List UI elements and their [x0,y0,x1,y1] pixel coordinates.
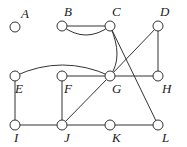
node-label-d: D [159,4,170,19]
node-label-h: H [161,81,172,96]
node-label-k: K [111,130,122,145]
node-label-i: I [13,130,19,145]
node-a [10,22,20,32]
node-h [153,71,163,81]
node-label-f: F [63,81,73,96]
node-label-g: G [112,81,122,96]
node-d [153,21,163,31]
node-g [105,71,115,81]
node-i [10,120,20,130]
node-b [57,21,67,31]
edges-layer [15,26,158,125]
node-label-l: L [161,130,169,145]
node-c [105,21,115,31]
graph-diagram: ABCDEFGHIJKL [0,0,187,147]
node-label-a: A [20,6,29,21]
node-f [57,71,67,81]
node-k [105,120,115,130]
node-e [10,71,20,81]
node-label-e: E [14,81,23,96]
node-label-b: B [64,4,72,19]
node-l [153,120,163,130]
nodes-layer: ABCDEFGHIJKL [10,4,172,145]
edge-b-c [62,26,110,35]
node-label-j: J [64,130,71,145]
node-j [57,120,67,130]
node-label-c: C [112,4,121,19]
